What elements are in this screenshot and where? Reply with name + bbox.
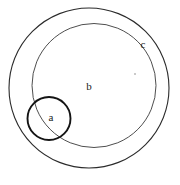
speck-mark — [134, 73, 136, 75]
region-label-b: b — [86, 81, 92, 92]
circles-diagram-svg — [0, 0, 180, 185]
diagram-canvas: a b c — [0, 0, 180, 185]
middle-circle-b — [32, 24, 156, 148]
region-label-a: a — [49, 112, 54, 123]
region-label-c: c — [141, 39, 146, 50]
